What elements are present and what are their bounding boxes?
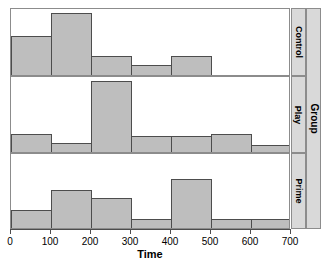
x-axis-tick-label: 0 [0, 236, 30, 247]
x-axis-tick-label: 700 [270, 236, 310, 247]
histogram-bar [211, 219, 252, 229]
histogram-bar [51, 13, 92, 76]
histogram-bar [91, 81, 132, 153]
x-axis-tick [50, 229, 51, 234]
panel-play-bars [11, 77, 289, 152]
x-axis-tick [10, 229, 11, 234]
histogram-bar [171, 136, 212, 153]
strip-label-prime: Prime [291, 153, 306, 229]
x-axis-tick [90, 229, 91, 234]
histogram-bar [131, 219, 172, 229]
outer-strip-group-text: Group [308, 104, 319, 134]
x-axis [10, 229, 290, 235]
strip-label-play-text: Play [294, 105, 304, 124]
histogram-bar [51, 143, 92, 153]
panel-control-bars [11, 9, 289, 75]
x-axis-tick [250, 229, 251, 234]
x-axis-tick [130, 229, 131, 234]
histogram-bar [251, 145, 290, 153]
x-axis-tick-label: 100 [30, 236, 70, 247]
x-axis-line [10, 229, 290, 230]
histogram-bar [131, 136, 172, 153]
panel-prime [10, 153, 290, 229]
histogram-bar [171, 179, 212, 229]
x-axis-tick [290, 229, 291, 234]
histogram-bar [131, 65, 172, 76]
strip-label-control-text: Control [294, 26, 304, 58]
x-axis-title: Time [0, 248, 300, 260]
panel-grid: Control Play Prime [10, 8, 290, 229]
x-axis-tick-label: 200 [70, 236, 110, 247]
histogram-figure: Control Play Prime Group 010020030040050… [0, 0, 321, 264]
outer-strip-group: Group [306, 8, 321, 229]
x-axis-tick-label: 600 [230, 236, 270, 247]
strip-label-play: Play [291, 76, 306, 153]
histogram-bar [11, 210, 52, 229]
x-axis-tick-label: 300 [110, 236, 150, 247]
histogram-bar [91, 56, 132, 76]
x-axis-tick-label: 500 [190, 236, 230, 247]
histogram-bar [211, 134, 252, 154]
panel-play [10, 76, 290, 153]
x-axis-tick-label: 400 [150, 236, 190, 247]
histogram-bar [251, 219, 290, 229]
histogram-bar [51, 190, 92, 229]
strip-label-control: Control [291, 8, 306, 76]
histogram-bar [11, 36, 52, 76]
histogram-bar [171, 56, 212, 76]
strip-label-prime-text: Prime [294, 178, 304, 203]
histogram-bar [11, 134, 52, 154]
histogram-bar [91, 198, 132, 229]
x-axis-tick [210, 229, 211, 234]
panel-control [10, 8, 290, 76]
x-axis-tick [170, 229, 171, 234]
panel-prime-bars [11, 154, 289, 228]
